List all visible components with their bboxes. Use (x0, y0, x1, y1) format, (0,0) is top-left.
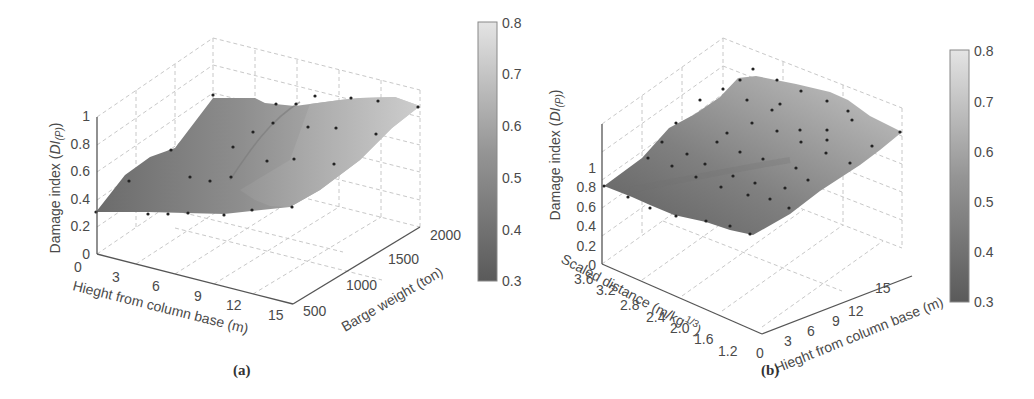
svg-text:0: 0 (74, 259, 82, 275)
svg-text:0.7: 0.7 (502, 66, 522, 82)
damage-surface-b (604, 76, 902, 235)
figure-panel-b: 0 0.2 0.4 0.6 0.8 1 Damage index (DI(P))… (530, 0, 1034, 399)
svg-text:0.6: 0.6 (974, 144, 994, 160)
caption-b: (b) (761, 362, 779, 379)
damage-surface-a (96, 97, 420, 214)
svg-text:0.3: 0.3 (974, 294, 994, 310)
svg-text:0.8: 0.8 (502, 15, 522, 31)
z-axis-ticks-a: 0 0.2 0.4 0.6 0.8 1 (71, 108, 91, 262)
svg-text:0.8: 0.8 (974, 43, 994, 59)
svg-text:1: 1 (588, 160, 596, 176)
svg-text:500: 500 (303, 303, 327, 319)
svg-text:0.4: 0.4 (71, 191, 91, 207)
colorbar-a: 0.3 0.4 0.5 0.6 0.7 0.8 (478, 15, 522, 289)
svg-text:9: 9 (832, 313, 840, 329)
svg-text:1: 1 (82, 108, 90, 124)
svg-text:1.2: 1.2 (718, 343, 738, 359)
svg-text:0.6: 0.6 (502, 118, 522, 134)
svg-text:3: 3 (784, 333, 792, 349)
z-axis-label-a: Damage index (DI(P)) (47, 123, 65, 254)
svg-text:3: 3 (112, 269, 120, 285)
svg-text:6: 6 (807, 323, 815, 339)
svg-text:0.2: 0.2 (577, 238, 597, 254)
svg-text:12: 12 (848, 303, 864, 319)
caption-a: (a) (233, 362, 251, 379)
svg-text:0.5: 0.5 (502, 170, 522, 186)
svg-text:0.8: 0.8 (71, 136, 91, 152)
colorbar-b: 0.3 0.4 0.5 0.6 0.7 0.8 (950, 43, 994, 310)
y-axis-label-a: Barge weight (ton) (339, 264, 446, 335)
svg-text:0.2: 0.2 (71, 218, 91, 234)
svg-text:0.6: 0.6 (71, 163, 91, 179)
svg-text:0: 0 (82, 246, 90, 262)
svg-text:0.4: 0.4 (577, 218, 597, 234)
z-axis-label-b: Damage index (DI(P)) (547, 90, 565, 221)
z-axis-ticks-b: 0 0.2 0.4 0.6 0.8 1 (577, 160, 597, 273)
svg-text:6: 6 (152, 278, 160, 294)
svg-text:0.7: 0.7 (974, 94, 994, 110)
surface-plot-a: 0 0.2 0.4 0.6 0.8 1 Damage index (DI(P))… (0, 0, 530, 399)
figure-panel-a: 0 0.2 0.4 0.6 0.8 1 Damage index (DI(P))… (0, 0, 530, 399)
svg-text:0.3: 0.3 (502, 273, 522, 289)
svg-text:0: 0 (756, 345, 764, 361)
svg-text:0.6: 0.6 (577, 199, 597, 215)
svg-text:15: 15 (268, 307, 284, 323)
svg-text:0.4: 0.4 (974, 244, 994, 260)
svg-text:1000: 1000 (346, 277, 377, 293)
svg-text:0.5: 0.5 (974, 194, 994, 210)
svg-text:9: 9 (194, 288, 202, 304)
svg-text:15: 15 (875, 280, 891, 296)
svg-text:0.4: 0.4 (502, 222, 522, 238)
svg-text:12: 12 (226, 297, 242, 313)
svg-text:2000: 2000 (430, 227, 461, 243)
svg-text:1500: 1500 (388, 251, 419, 267)
svg-text:0.8: 0.8 (577, 179, 597, 195)
surface-plot-b: 0 0.2 0.4 0.6 0.8 1 Damage index (DI(P))… (530, 0, 1034, 399)
